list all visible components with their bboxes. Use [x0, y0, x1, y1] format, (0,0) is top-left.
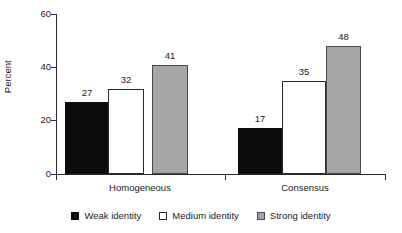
- y-tick-label-40: 40: [7, 62, 51, 72]
- bar-chart: Percent 60 40 20 0 27 32 41 17 35 48: [0, 0, 402, 233]
- bar-value-homogeneous-strong: 41: [152, 51, 188, 61]
- chart-legend: Weak identity Medium identity Strong ide…: [0, 210, 402, 221]
- plot-area: 27 32 41 17 35 48: [56, 14, 386, 174]
- legend-label-strong: Strong identity: [270, 210, 331, 221]
- y-tick-label-0: 0: [7, 169, 51, 179]
- bar-value-homogeneous-medium: 32: [108, 75, 144, 85]
- x-tick-mark-right: [385, 175, 386, 180]
- y-axis-title: Percent: [3, 37, 13, 117]
- legend-label-weak: Weak identity: [84, 210, 141, 221]
- y-tick-label-60: 60: [7, 9, 51, 19]
- legend-swatch-icon-weak: [71, 212, 79, 220]
- x-axis-line: [56, 174, 386, 175]
- legend-label-medium: Medium identity: [172, 210, 239, 221]
- legend-swatch-icon-medium: [159, 212, 167, 220]
- bar-consensus-medium: [282, 81, 326, 174]
- bar-value-homogeneous-weak: 27: [65, 88, 109, 98]
- bar-value-consensus-medium: 35: [282, 67, 326, 77]
- legend-item-strong-identity: Strong identity: [257, 210, 331, 221]
- bar-homogeneous-weak: [65, 102, 109, 174]
- bar-consensus-weak: [238, 128, 282, 174]
- bar-value-consensus-strong: 48: [326, 32, 361, 42]
- x-axis-label-consensus: Consensus: [240, 182, 370, 193]
- bar-consensus-strong: [326, 46, 361, 174]
- legend-swatch-icon-strong: [257, 212, 265, 220]
- x-axis-label-homogeneous: Homogeneous: [75, 182, 205, 193]
- bar-homogeneous-strong: [152, 65, 188, 174]
- y-tick-label-20: 20: [7, 115, 51, 125]
- legend-item-medium-identity: Medium identity: [159, 210, 239, 221]
- legend-item-weak-identity: Weak identity: [71, 210, 141, 221]
- bar-value-consensus-weak: 17: [238, 114, 282, 124]
- bar-homogeneous-medium: [108, 89, 144, 174]
- x-tick-mark-middle: [225, 175, 226, 180]
- x-tick-mark-left: [56, 175, 57, 180]
